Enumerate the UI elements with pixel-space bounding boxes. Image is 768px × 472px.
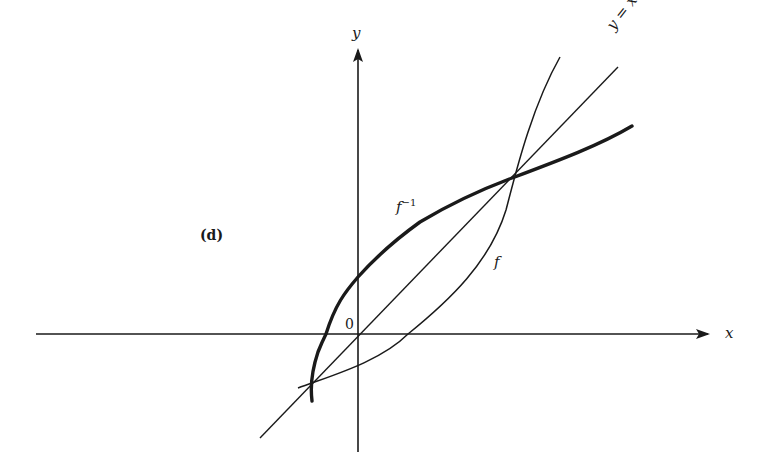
f-curve-label: f — [494, 255, 500, 270]
diagram-svg — [0, 0, 768, 472]
panel-label: (d) — [200, 228, 223, 242]
inverse-function-diagram: y x 0 (d) f f−1 y = x — [0, 0, 768, 472]
x-axis-label: x — [725, 326, 733, 341]
f-curve — [298, 57, 560, 388]
origin-label: 0 — [345, 317, 354, 331]
f-inverse-curve-label: f−1 — [396, 198, 416, 215]
y-axis-label: y — [352, 26, 360, 41]
f-inverse-exponent: −1 — [402, 197, 417, 208]
f-inverse-curve — [311, 126, 632, 401]
